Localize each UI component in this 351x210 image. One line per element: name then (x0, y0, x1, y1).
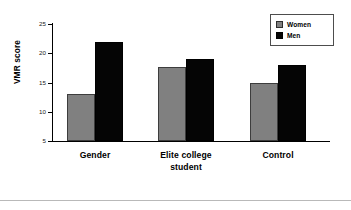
y-tick-mark-15 (48, 83, 52, 84)
men-swatch-icon (276, 32, 283, 39)
y-tick-mark-20 (48, 53, 52, 54)
legend-label-men: Men (287, 32, 301, 39)
legend-label-women: Women (287, 21, 311, 28)
y-tick-mark-25 (48, 24, 52, 25)
bar-men-control (278, 65, 306, 141)
x-axis-line (52, 141, 330, 142)
y-tick-5: 5 (4, 138, 46, 144)
y-tick-10: 10 (4, 109, 46, 115)
bar-chart-figure: VMR score 510152025 GenderElite colleges… (0, 0, 351, 210)
bottom-divider (0, 200, 351, 201)
bar-men-gender (95, 42, 123, 141)
y-tick-mark-10 (48, 112, 52, 113)
category-label-gender: Gender (50, 150, 140, 162)
legend-item-women: Women (276, 19, 333, 30)
bar-women-elite-college-student (158, 67, 186, 141)
bar-men-elite-college-student (186, 59, 214, 141)
category-label-control: Control (233, 150, 323, 162)
y-axis-title: VMR score (12, 22, 22, 102)
y-tick-15: 15 (4, 79, 46, 85)
bar-women-gender (67, 94, 95, 141)
bar-women-control (250, 83, 278, 142)
chart-legend: Women Men (270, 14, 334, 46)
women-swatch-icon (276, 21, 283, 28)
y-tick-25: 25 (4, 21, 46, 27)
y-tick-mark-5 (48, 141, 52, 142)
legend-item-men: Men (276, 30, 333, 41)
category-label-elite-college-student: Elite collegestudent (141, 150, 231, 173)
y-tick-20: 20 (4, 50, 46, 56)
